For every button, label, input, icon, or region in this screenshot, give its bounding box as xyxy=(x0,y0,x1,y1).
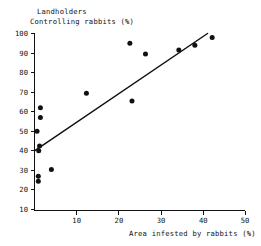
regression-line xyxy=(35,34,208,151)
x-tick-label: 40 xyxy=(199,216,208,225)
data-point xyxy=(36,179,41,184)
x-tick-label: 50 xyxy=(241,216,250,225)
data-point xyxy=(38,115,43,120)
data-point xyxy=(36,174,41,179)
y-tick-label: 20 xyxy=(19,185,28,194)
data-points xyxy=(35,35,215,184)
data-point xyxy=(38,105,43,110)
x-axis-tick-labels: 10 20 30 40 50 xyxy=(72,216,249,225)
data-point xyxy=(84,91,89,96)
y-tick-label: 50 xyxy=(19,127,28,136)
axis-lines xyxy=(35,33,246,211)
y-tick-label: 40 xyxy=(19,146,28,155)
y-tick-label: 10 xyxy=(19,205,28,214)
data-point xyxy=(192,43,197,48)
data-point xyxy=(36,148,41,153)
data-point xyxy=(37,143,42,148)
y-axis-ticks xyxy=(31,34,35,210)
data-point xyxy=(176,48,181,53)
x-axis-title: Area infested by rabbits (%) xyxy=(129,229,256,238)
plot-canvas: 100 90 80 70 60 50 40 30 20 10 10 20 30 … xyxy=(0,0,261,246)
y-tick-label: 70 xyxy=(19,88,28,97)
x-tick-label: 10 xyxy=(72,216,81,225)
data-point xyxy=(127,41,132,46)
data-point xyxy=(143,52,148,57)
x-tick-label: 30 xyxy=(157,216,166,225)
data-point xyxy=(49,167,54,172)
scatter-plot-figure: Landholders Controlling rabbits (%) 100 … xyxy=(0,0,261,246)
y-tick-label: 30 xyxy=(19,166,28,175)
y-axis-tick-labels: 100 90 80 70 60 50 40 30 20 10 xyxy=(15,29,28,214)
y-tick-label: 80 xyxy=(19,68,28,77)
y-tick-label: 60 xyxy=(19,107,28,116)
data-point xyxy=(129,98,134,103)
y-tick-label: 100 xyxy=(15,29,28,38)
x-axis-ticks xyxy=(77,211,246,215)
data-point xyxy=(35,129,40,134)
y-tick-label: 90 xyxy=(19,49,28,58)
x-tick-label: 20 xyxy=(115,216,124,225)
data-point xyxy=(210,35,215,40)
